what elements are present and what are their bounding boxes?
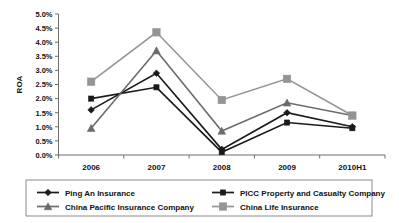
roa-line-chart: 0.0%0.5%1.0%1.5%2.0%2.5%3.0%3.5%4.0%4.5%… xyxy=(0,0,399,223)
series-3 xyxy=(87,47,356,134)
legend-label: Ping An Insurance xyxy=(65,189,135,198)
data-point-marker xyxy=(283,75,290,82)
x-axis-category-label: 2008 xyxy=(213,163,231,172)
x-axis-category-label: 2010H1 xyxy=(338,163,367,172)
y-axis-tick-label: 1.0% xyxy=(35,123,52,132)
data-point-marker xyxy=(153,29,160,36)
x-axis: 20062007200820092010H1 xyxy=(59,155,386,172)
chart-canvas: 0.0%0.5%1.0%1.5%2.0%2.5%3.0%3.5%4.0%4.5%… xyxy=(0,0,399,223)
y-axis-title: ROA xyxy=(15,75,24,93)
legend-item[interactable]: China Life Insurance xyxy=(212,203,319,212)
x-axis-category-label: 2006 xyxy=(82,163,100,172)
data-point-marker xyxy=(87,78,94,85)
legend-marker xyxy=(219,203,226,210)
y-axis-tick-label: 2.5% xyxy=(35,80,52,89)
data-point-marker xyxy=(153,47,161,54)
legend-label: PICC Property and Casualty Company xyxy=(240,189,385,198)
x-axis-category-label: 2009 xyxy=(278,163,296,172)
data-point-marker xyxy=(154,85,159,90)
legend-item[interactable]: Ping An Insurance xyxy=(37,189,135,198)
legend-item[interactable]: PICC Property and Casualty Company xyxy=(212,189,385,198)
legend-label: China Pacific Insurance Company xyxy=(65,203,194,212)
y-axis-tick-label: 0.5% xyxy=(35,137,52,146)
data-point-marker xyxy=(218,96,225,103)
legend-item[interactable]: China Pacific Insurance Company xyxy=(37,203,194,212)
y-axis-tick-label: 3.0% xyxy=(35,66,52,75)
y-axis-tick-label: 3.5% xyxy=(35,52,52,61)
y-axis-tick-label: 4.5% xyxy=(35,24,52,33)
y-axis: 0.0%0.5%1.0%1.5%2.0%2.5%3.0%3.5%4.0%4.5%… xyxy=(35,10,58,160)
y-axis-tick-label: 4.0% xyxy=(35,38,52,47)
data-point-marker xyxy=(284,120,289,125)
data-point-marker xyxy=(89,96,94,101)
data-point-marker xyxy=(350,126,355,131)
data-point-marker xyxy=(88,107,95,114)
data-point-marker xyxy=(284,109,291,116)
series-4 xyxy=(87,29,356,120)
data-point-marker xyxy=(349,112,356,119)
legend-marker xyxy=(220,190,225,195)
y-axis-tick-label: 0.0% xyxy=(35,151,52,160)
data-point-marker xyxy=(219,150,224,155)
y-axis-tick-label: 5.0% xyxy=(35,10,52,19)
legend-label: China Life Insurance xyxy=(240,203,319,212)
x-axis-category-label: 2007 xyxy=(148,163,166,172)
y-axis-tick-label: 1.5% xyxy=(35,109,52,118)
chart-legend: Ping An InsurancePICC Property and Casua… xyxy=(26,180,385,216)
series-1 xyxy=(88,70,356,153)
series-line xyxy=(91,73,352,149)
y-axis-tick-label: 2.0% xyxy=(35,94,52,103)
legend-marker xyxy=(45,189,52,196)
